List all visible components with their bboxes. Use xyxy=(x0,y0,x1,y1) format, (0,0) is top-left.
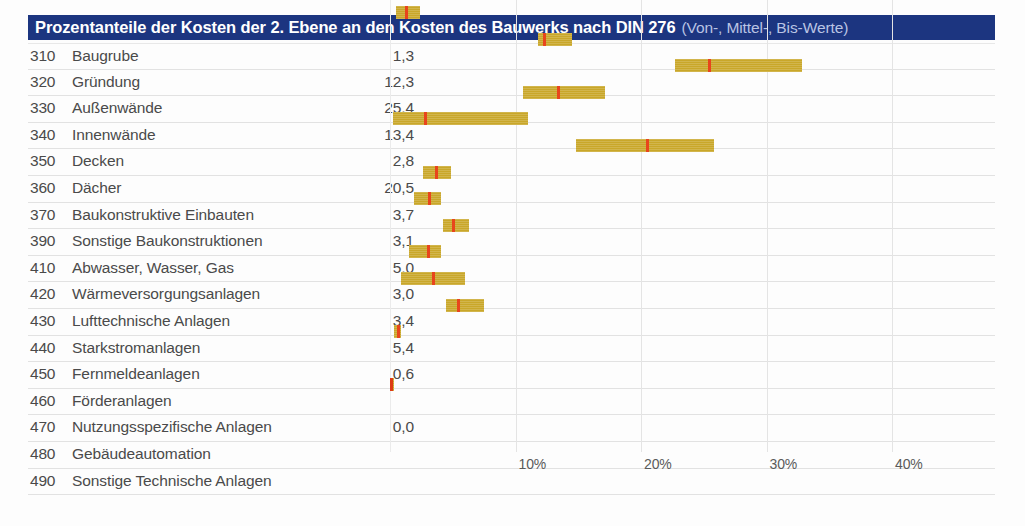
x-axis: 10%20%30%40% xyxy=(390,452,967,482)
plot-area xyxy=(390,0,967,452)
mean-marker xyxy=(435,166,438,179)
row-code: 350 xyxy=(30,152,68,170)
row-label: Abwasser, Wasser, Gas xyxy=(72,259,234,277)
row-label: Baukonstruktive Einbauten xyxy=(72,206,254,224)
row-code: 470 xyxy=(30,418,68,436)
row-label: Fernmeldeanlagen xyxy=(72,365,200,383)
row-label: Sonstige Baukonstruktionen xyxy=(72,232,262,250)
gridline-10 xyxy=(516,0,517,452)
row-label: Lufttechnische Anlagen xyxy=(72,312,230,330)
range-bar xyxy=(576,139,714,152)
row-label: Nutzungsspezifische Anlagen xyxy=(72,418,272,436)
row-code: 370 xyxy=(30,206,68,224)
row-code: 360 xyxy=(30,179,68,197)
mean-marker xyxy=(390,378,393,391)
mean-marker xyxy=(432,272,435,285)
range-bar xyxy=(409,245,442,258)
row-label: Gründung xyxy=(72,73,140,91)
row-code: 340 xyxy=(30,126,68,144)
mean-marker xyxy=(457,299,460,312)
row-code: 310 xyxy=(30,47,68,65)
row-code: 490 xyxy=(30,472,68,490)
row-label: Wärmeversorgungsanlagen xyxy=(72,285,260,303)
mean-marker xyxy=(424,112,427,125)
row-code: 480 xyxy=(30,445,68,463)
row-code: 440 xyxy=(30,339,68,357)
mean-marker xyxy=(427,245,430,258)
row-code: 420 xyxy=(30,285,68,303)
mean-marker xyxy=(646,139,649,152)
row-label: Außenwände xyxy=(72,99,162,117)
row-label: Förderanlagen xyxy=(72,392,172,410)
range-bar xyxy=(446,299,484,312)
row-label: Sonstige Technische Anlagen xyxy=(72,472,272,490)
row-code: 410 xyxy=(30,259,68,277)
row-code: 430 xyxy=(30,312,68,330)
x-tick-label: 20% xyxy=(644,456,672,472)
range-bar xyxy=(675,59,802,72)
row-label: Decken xyxy=(72,152,124,170)
gridline-20 xyxy=(641,0,642,452)
gridline-40 xyxy=(892,0,893,452)
mean-marker xyxy=(405,6,408,19)
range-bar xyxy=(393,112,529,125)
row-label: Gebäudeautomation xyxy=(72,445,211,463)
row-label: Dächer xyxy=(72,179,121,197)
mean-marker xyxy=(428,192,431,205)
chart-page: Prozentanteile der Kosten der 2. Ebene a… xyxy=(0,0,1025,526)
mean-marker xyxy=(557,86,560,99)
row-label: Baugrube xyxy=(72,47,138,65)
x-tick-label: 40% xyxy=(895,456,923,472)
row-label: Innenwände xyxy=(72,126,155,144)
axis-bottom-rule xyxy=(28,494,995,495)
mean-marker xyxy=(452,219,455,232)
row-code: 460 xyxy=(30,392,68,410)
row-code: 450 xyxy=(30,365,68,383)
row-code: 320 xyxy=(30,73,68,91)
x-tick-label: 10% xyxy=(519,456,547,472)
mean-marker xyxy=(397,325,400,338)
mean-marker xyxy=(708,59,711,72)
row-label: Starkstromanlagen xyxy=(72,339,200,357)
range-bar xyxy=(443,219,469,232)
mean-marker xyxy=(543,33,546,46)
row-code: 330 xyxy=(30,99,68,117)
range-bar xyxy=(523,86,605,99)
x-tick-label: 30% xyxy=(770,456,798,472)
row-code: 390 xyxy=(30,232,68,250)
